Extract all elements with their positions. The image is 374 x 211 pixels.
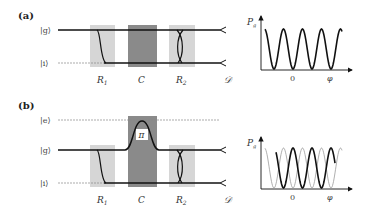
r2-label-b: R2 xyxy=(175,195,187,206)
cavity-label-b: C xyxy=(138,195,145,205)
ket-i-b: |i⟩ xyxy=(40,179,48,188)
ket-i-a: |i⟩ xyxy=(40,59,48,68)
panel-a: (a) |g⟩ |i⟩ R1 C R2 𝒟 Pg 0 φ xyxy=(18,10,352,86)
y-axis-label-a: Pg xyxy=(246,17,256,29)
x-axis-label-b: φ xyxy=(327,193,333,202)
x-tick-zero-b: 0 xyxy=(290,193,295,202)
r2-label-a: R2 xyxy=(175,75,187,86)
x-tick-zero-a: 0 xyxy=(290,74,295,83)
ket-g-b: |g⟩ xyxy=(40,146,51,155)
pi-pulse-label: π xyxy=(138,130,146,140)
cavity-zone-a xyxy=(128,25,157,67)
y-axis-label-b: Pg xyxy=(246,138,256,150)
r1-label-b: R1 xyxy=(96,195,108,206)
cavity-label-a: C xyxy=(138,75,145,85)
x-axis-label-a: φ xyxy=(327,74,333,83)
fringe-plot-a: Pg 0 φ xyxy=(246,16,352,83)
cavity-zone-b xyxy=(128,116,157,187)
fringe-plot-b: Pg 0 φ xyxy=(246,137,352,202)
panel-b: (b) |e⟩ |g⟩ |i⟩ π R1 C R2 𝒟 xyxy=(18,100,352,206)
detector-icon-g-b xyxy=(220,147,226,153)
ket-e-b: |e⟩ xyxy=(40,116,51,125)
detector-label-b: 𝒟 xyxy=(224,195,233,205)
fringe-curve-shifted-b xyxy=(276,148,335,188)
panel-a-label: (a) xyxy=(18,10,34,21)
detector-label-a: 𝒟 xyxy=(224,75,233,85)
detector-icon-g-a xyxy=(220,27,226,33)
ramsey-interferometer-figure: (a) |g⟩ |i⟩ R1 C R2 𝒟 Pg 0 φ xyxy=(0,0,374,211)
detector-icon-i-a xyxy=(220,60,226,66)
ramsey-zone-r1-a xyxy=(90,25,115,67)
detector-icon-i-b xyxy=(220,180,226,186)
panel-b-label: (b) xyxy=(18,100,34,111)
r1-label-a: R1 xyxy=(96,75,108,86)
ramsey-zone-r1-b xyxy=(90,145,115,187)
fringe-curve-a xyxy=(265,29,342,69)
ket-g-a: |g⟩ xyxy=(40,26,51,35)
